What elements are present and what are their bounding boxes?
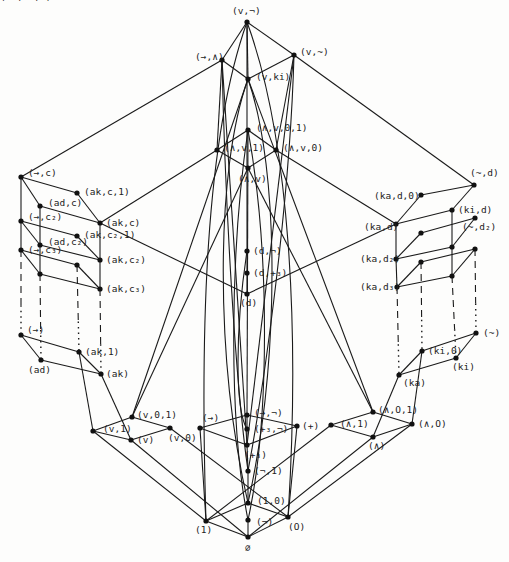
dashed-edge-ka_d3_0-ki_0 xyxy=(421,262,422,320)
node-v_1 xyxy=(90,428,95,433)
node-p3 xyxy=(244,442,249,447)
node-tilde_d xyxy=(471,182,476,187)
edge-v_tilde-and_or_0 xyxy=(276,55,294,150)
edge-to-ad xyxy=(21,335,41,360)
node-empty xyxy=(245,534,250,539)
node-ki_0 xyxy=(419,348,424,353)
node-label-neg: (¬) xyxy=(256,516,273,527)
edge-ad_c3-ak_c3 xyxy=(40,274,100,289)
edge-tilde_d3-ki_d3 xyxy=(452,249,475,276)
node-label-ak_1: (ak,1) xyxy=(85,346,119,357)
node-label-p3_neg: (+₃,¬) xyxy=(254,423,288,434)
node-and xyxy=(370,434,375,439)
edge-to_c2-ad_c2 xyxy=(21,221,40,245)
node-tilde_d2 xyxy=(472,215,477,220)
node-label-and_or: (∧,v) xyxy=(238,173,267,184)
node-ak_1 xyxy=(76,349,81,354)
edge-v_tilde-tilde_d xyxy=(294,55,474,185)
edge-and_or-and_0_1 xyxy=(248,168,373,412)
node-label-ka_d: (ka,d) xyxy=(364,221,398,232)
node-label-ak: (ak) xyxy=(106,368,129,379)
node-label-ki_0: (ki,0) xyxy=(428,345,462,356)
lattice-diagram: (v,¬)(→,∧)(v,~)(v,ki)(∧,v,0,1)(∧,v,1)(∧,… xyxy=(0,0,509,562)
node-label-and: (∧) xyxy=(368,440,385,451)
node-label-v_ki: (v,ki) xyxy=(256,71,290,82)
node-label-and_1: (∧,1) xyxy=(340,418,369,429)
node-one xyxy=(203,518,208,523)
node-label-ka: (ka) xyxy=(403,377,426,388)
node-ak_c3_1 xyxy=(74,262,79,267)
node-d_neg xyxy=(244,248,249,253)
node-label-ad: (ad) xyxy=(28,364,51,375)
edge-and_or_0-ka_d xyxy=(276,150,396,224)
node-to_neg xyxy=(244,412,249,417)
edge-v_ki-v_0_1 xyxy=(132,79,248,417)
edge-ki_d-ka_d xyxy=(396,210,452,224)
dotted-edge-ka_d3-ka xyxy=(398,344,399,375)
node-ak_c2 xyxy=(97,257,102,262)
node-d_p3 xyxy=(244,270,249,275)
node-to_c3 xyxy=(18,247,23,252)
node-neg_1 xyxy=(245,468,250,473)
dotted-edge-ak_c3_1-ak_1 xyxy=(78,322,79,352)
node-v_0 xyxy=(167,425,172,430)
node-to_c xyxy=(18,174,23,179)
node-label-v_1: (v,1) xyxy=(103,423,132,434)
node-label-neg_1: (¬,1) xyxy=(254,465,283,476)
dashed-edge-ki_d3-ki xyxy=(452,276,455,329)
node-label-to_c2: (→,c₂) xyxy=(28,211,62,222)
node-label-to_c: (→,c) xyxy=(28,167,57,178)
edge-plus-zero xyxy=(288,426,297,517)
node-label-tilde: (~) xyxy=(483,327,500,338)
node-and_0_1 xyxy=(370,409,375,414)
edge-tilde_d3-ka_d3_0 xyxy=(421,249,475,262)
node-label-to: (→) xyxy=(27,324,44,335)
node-label-to_and: (→,∧) xyxy=(195,51,224,62)
edge-to_c2-ak_c2_1 xyxy=(21,221,77,236)
node-v_0_1 xyxy=(129,414,134,419)
node-v_ki xyxy=(245,76,250,81)
node-to_only xyxy=(197,425,202,430)
dashed-edge-ka_d3-ka xyxy=(397,287,398,344)
node-label-to_neg: (→,¬) xyxy=(254,407,283,418)
node-label-ak_c3_1: (ak,c₃,1) xyxy=(0,0,51,2)
node-p3_neg xyxy=(244,426,249,431)
node-ki_d3 xyxy=(449,273,454,278)
edge-and_or-v_0_1 xyxy=(132,168,248,417)
node-to xyxy=(18,332,23,337)
node-label-ki: (ki) xyxy=(452,361,475,372)
node-ki_d xyxy=(449,207,454,212)
node-label-v_0_1: (v,0,1) xyxy=(137,409,177,420)
edge-ki_d2-ka_d2 xyxy=(396,247,452,259)
edge-v-empty xyxy=(131,440,248,537)
node-label-ak_c3: (ak,c₃) xyxy=(106,283,146,294)
node-label-one_zero: (1,0) xyxy=(257,495,286,506)
node-label-and_or_0: (∧,v,0) xyxy=(283,142,323,153)
dashed-edge-ak_c3-ak xyxy=(100,289,101,344)
edge-ak_c3_1-ak_c3 xyxy=(77,265,100,289)
node-tilde xyxy=(473,330,478,335)
node-label-ad_c: (ad,c) xyxy=(48,197,82,208)
node-label-ki_d: (ki,d) xyxy=(458,204,492,215)
edge-to_and-to_c xyxy=(21,60,222,177)
node-label-to_c3: (→,c₃) xyxy=(28,244,62,255)
edge-one_zero-one xyxy=(206,503,248,521)
node-and_1 xyxy=(328,422,333,427)
node-label-plus: (+) xyxy=(302,420,319,431)
node-and_or_1 xyxy=(214,147,219,152)
node-label-ak_c_1: (ak,c,1) xyxy=(84,186,130,197)
node-label-to_only: (→) xyxy=(202,412,219,423)
node-ka_d3_0 xyxy=(418,259,423,264)
node-label-v: (v) xyxy=(137,434,154,445)
node-label-v_neg: (v,¬) xyxy=(232,5,261,16)
node-ka xyxy=(396,372,401,377)
node-neg xyxy=(245,517,250,522)
node-label-ka_d3: (ka,d₃) xyxy=(360,281,400,292)
node-label-ka_d_0: (ka,d,0) xyxy=(374,190,420,201)
node-label-empty: ∅ xyxy=(245,542,251,553)
node-and_or_0_1 xyxy=(245,127,250,132)
node-label-ak_c2_1: (ak,c₂,1) xyxy=(84,229,135,240)
node-label-ka_d2: (ka,d₂) xyxy=(360,253,400,264)
dashed-edge-ak_c3_1-ak_1 xyxy=(77,265,78,322)
node-label-and_or_1: (∧,v,1) xyxy=(224,142,264,153)
